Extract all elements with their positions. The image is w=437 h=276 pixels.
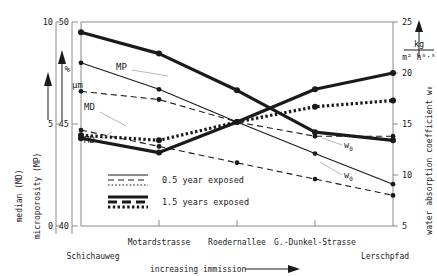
x-category-label-0: Schichauweg xyxy=(67,252,120,261)
series-line-mp-05 xyxy=(81,91,393,136)
mp-tick-label-0: 50 xyxy=(59,17,69,27)
annotation-label-4: w0 xyxy=(344,170,353,182)
w0-axis-title: water absorption coefficient w₀ xyxy=(425,85,434,234)
annotation-leader-1 xyxy=(100,112,126,126)
series-point-md-05-3 xyxy=(313,177,318,182)
series-point-w0-05-0 xyxy=(79,60,84,65)
w0-arrow-head xyxy=(415,20,423,32)
series-point-mp-05-0 xyxy=(79,89,84,94)
series-point-mp-15-4 xyxy=(390,70,396,76)
x-category-label-3: G.-Dunkel-Strasse xyxy=(274,238,356,247)
series-point-w0-15-1 xyxy=(156,51,162,57)
chart-canvas: 1050µmmedian (MD)504540%microporosity (M… xyxy=(0,0,437,276)
md-arrow-head xyxy=(44,72,52,86)
series-point-mp-05-1 xyxy=(157,97,162,102)
series-point-w0-05-2 xyxy=(235,120,240,125)
series-point-w0-15-2 xyxy=(234,87,240,93)
series-point-md-15-3 xyxy=(312,104,318,110)
mp-arrow-head xyxy=(58,50,66,64)
w0-unit-numerator: kg xyxy=(414,39,424,49)
md-axis-title: median (MD) xyxy=(15,170,24,223)
series-point-md-05-0 xyxy=(79,128,84,133)
series-point-md-05-4 xyxy=(391,193,396,198)
series-point-md-05-1 xyxy=(157,144,162,149)
x-category-label-4: Lerschpfad xyxy=(361,252,409,261)
md-tick-label-0: 10 xyxy=(43,17,53,27)
series-point-w0-05-3 xyxy=(313,151,318,156)
series-point-w0-05-1 xyxy=(157,87,162,92)
w0-tick-label-4: 5 xyxy=(402,221,407,231)
series-point-md-15-1 xyxy=(156,137,162,143)
annotation-leader-4 xyxy=(320,162,342,175)
md-unit-label: µm xyxy=(72,80,83,90)
mp-unit-label: % xyxy=(65,64,71,74)
annotation-label-2: MD xyxy=(84,135,95,145)
annotation-label-1: MD xyxy=(84,102,95,112)
w0-tick-label-2: 15 xyxy=(402,119,412,129)
annotation-label-0: MP xyxy=(116,62,127,72)
annotation-label-3: w0 xyxy=(344,140,353,152)
series-point-w0-15-3 xyxy=(312,129,318,135)
mp-tick-label-1: 45 xyxy=(59,119,69,129)
chart-figure: 1050µmmedian (MD)504540%microporosity (M… xyxy=(0,0,437,276)
x-category-label-1: Motardstrasse xyxy=(128,238,191,247)
annotation-leader-3 xyxy=(322,138,342,145)
mp-tick-label-2: 40 xyxy=(59,221,69,231)
legend-label-1: 1.5 years exposed xyxy=(162,197,249,207)
x-category-label-2: Roedernallee xyxy=(208,238,266,247)
series-point-md-05-2 xyxy=(235,160,240,165)
x-axis-title: increasing immission xyxy=(150,265,247,274)
series-point-mp-15-3 xyxy=(312,86,318,92)
series-point-w0-15-0 xyxy=(78,29,84,35)
md-tick-label-1: 5 xyxy=(48,119,53,129)
x-axis-arrow-head xyxy=(288,265,300,273)
series-point-w0-15-4 xyxy=(390,137,396,143)
series-point-w0-05-4 xyxy=(391,182,396,187)
legend-label-0: 0.5 year exposed xyxy=(162,175,244,185)
w0-tick-label-1: 20 xyxy=(402,68,412,78)
w0-unit-denominator: m² h⁰·⁵ xyxy=(402,53,436,62)
series-point-mp-15-1 xyxy=(156,150,162,156)
series-point-md-15-4 xyxy=(390,98,396,104)
w0-tick-label-3: 10 xyxy=(402,170,412,180)
annotation-leader-0 xyxy=(132,70,168,76)
w0-tick-label-0: 25 xyxy=(402,17,412,27)
mp-axis-title: microporosity (MP) xyxy=(33,153,42,240)
md-tick-label-2: 0 xyxy=(48,221,53,231)
